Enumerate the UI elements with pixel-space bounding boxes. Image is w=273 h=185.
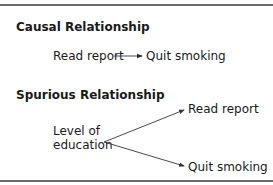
arrows-layer (0, 0, 273, 185)
spurious-arrow-down-icon (104, 142, 184, 166)
bottom-rule (0, 180, 273, 182)
spurious-arrow-up-icon (104, 110, 184, 142)
